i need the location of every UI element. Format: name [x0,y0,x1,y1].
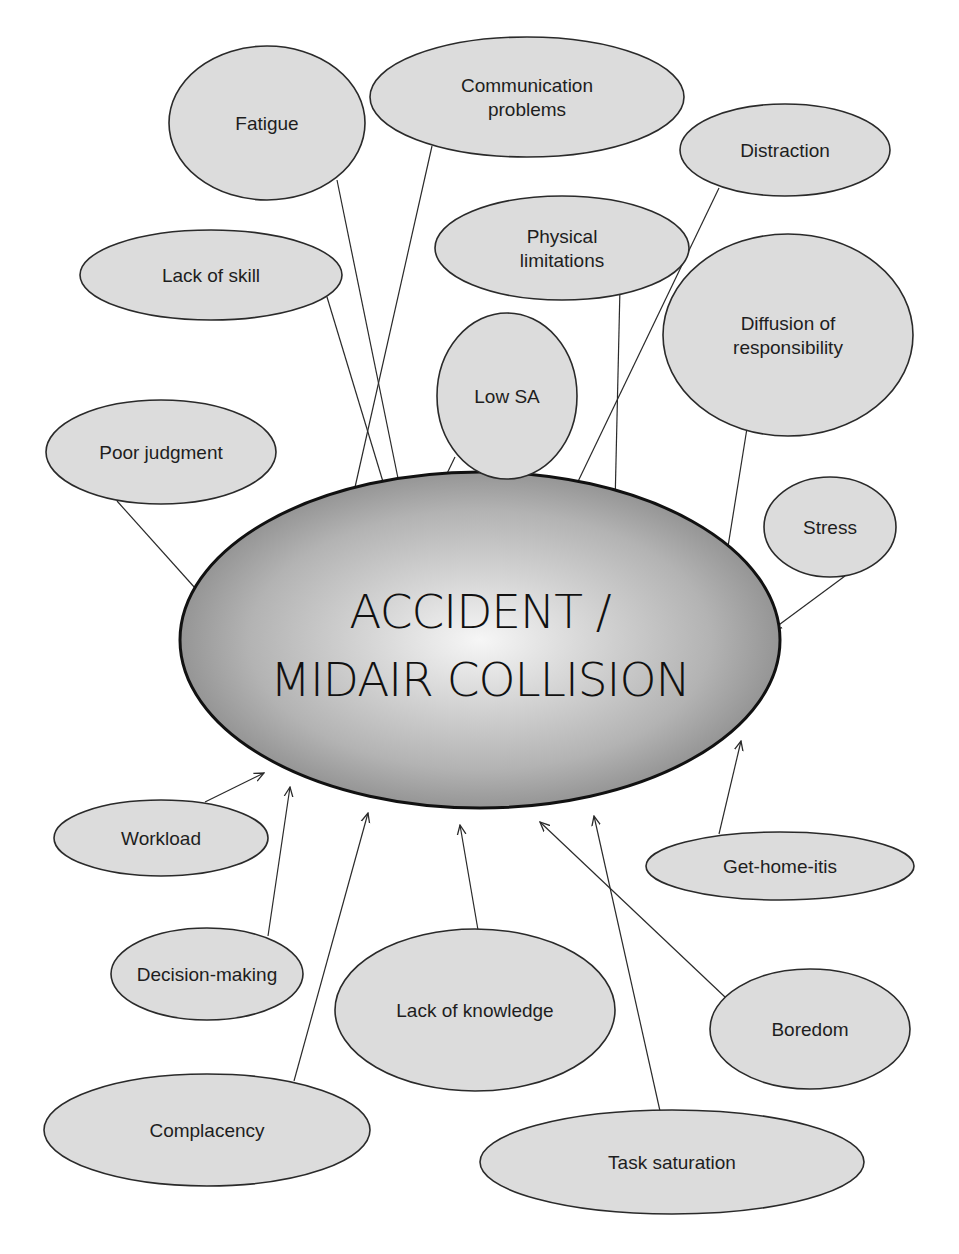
node-label: Stress [803,517,857,538]
center-node: ACCIDENT /MIDAIR COLLISION [180,472,780,808]
node-label: Decision-making [137,964,277,985]
node-ellipse [435,196,689,300]
arrow-stress [772,576,845,630]
node-low-sa: Low SA [437,313,577,479]
node-label: Lack of knowledge [396,1000,553,1021]
arrow-workload [205,773,264,802]
arrow-diffusion-of-responsibility [726,422,748,559]
node-label: Low SA [474,386,540,407]
node-label: Lack of skill [162,265,260,286]
node-workload: Workload [54,800,268,876]
node-label: Complacency [149,1120,265,1141]
node-label: problems [488,99,566,120]
node-label: Diffusion of [741,313,836,334]
arrow-poor-judgment [117,501,204,598]
node-boredom: Boredom [710,969,910,1089]
node-get-home-itis: Get-home-itis [646,832,914,900]
node-stress: Stress [764,477,896,577]
node-label: Fatigue [235,113,298,134]
node-decision-making: Decision-making [111,928,303,1020]
node-communication-problems: Communicationproblems [370,37,684,157]
node-label: Task saturation [608,1152,736,1173]
arrow-lack-of-skill [327,297,387,495]
node-label: Distraction [740,140,830,161]
node-complacency: Complacency [44,1074,370,1186]
arrow-fatigue [337,180,401,493]
node-physical-limitations: Physicallimitations [435,196,689,300]
cause-diagram: ACCIDENT /MIDAIR COLLISION FatigueCommun… [0,0,959,1254]
node-diffusion-of-responsibility: Diffusion ofresponsibility [663,234,913,436]
center-ellipse [180,472,780,808]
node-label: Poor judgment [99,442,223,463]
node-lack-of-knowledge: Lack of knowledge [335,929,615,1091]
node-label: Workload [121,828,201,849]
node-label: Boredom [771,1019,848,1040]
center-label-line: ACCIDENT / [349,584,612,639]
node-label: Get-home-itis [723,856,837,877]
node-distraction: Distraction [680,104,890,196]
node-label: responsibility [733,337,843,358]
node-task-saturation: Task saturation [480,1110,864,1214]
node-ellipse [663,234,913,436]
arrow-communication-problems [351,146,432,505]
node-fatigue: Fatigue [169,46,365,200]
arrow-get-home-itis [719,741,741,834]
node-ellipse [370,37,684,157]
node-label: Communication [461,75,593,96]
node-label: limitations [520,250,604,271]
node-poor-judgment: Poor judgment [46,400,276,504]
arrow-lack-of-knowledge [460,825,478,930]
node-label: Physical [527,226,598,247]
center-label-line: MIDAIR COLLISION [270,652,689,707]
node-lack-of-skill: Lack of skill [80,230,342,320]
arrow-decision-making [268,787,290,936]
